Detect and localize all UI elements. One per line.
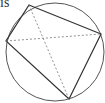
quadrilateral: [6, 5, 101, 99]
cyclic-quadrilateral-diagram: [0, 0, 105, 103]
diagonal-left-right: [6, 34, 101, 41]
